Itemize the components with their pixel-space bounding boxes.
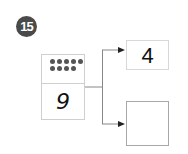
arrow-head-icon: [118, 121, 125, 127]
answer-box-top: 4: [126, 40, 169, 70]
arrow-head-icon: [118, 47, 125, 53]
answer-box-bottom[interactable]: [126, 101, 169, 146]
